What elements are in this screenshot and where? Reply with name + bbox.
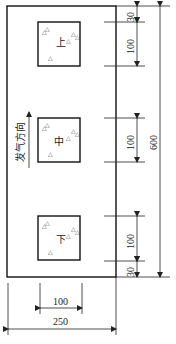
total-width-dimension: 250 bbox=[8, 316, 116, 329]
dim-middle-square: 100 bbox=[125, 135, 136, 150]
svg-text:△: △ bbox=[45, 25, 50, 32]
svg-text:△: △ bbox=[75, 228, 80, 235]
direction-label: 发气方向 bbox=[14, 122, 26, 162]
segment-dimensions: 30 100 100 100 30 bbox=[125, 6, 137, 277]
dim-top-margin: 30 bbox=[125, 12, 136, 22]
total-height-dimension: 600 bbox=[148, 6, 160, 277]
svg-text:△: △ bbox=[66, 37, 71, 44]
zone-label-middle: 中 bbox=[54, 135, 64, 147]
svg-text:250: 250 bbox=[53, 316, 68, 327]
dim-top-square: 100 bbox=[125, 39, 136, 54]
svg-text:△: △ bbox=[75, 33, 80, 40]
svg-text:600: 600 bbox=[148, 135, 159, 150]
svg-text:△: △ bbox=[66, 134, 71, 141]
svg-text:△: △ bbox=[48, 150, 53, 157]
dim-bottom-square: 100 bbox=[125, 234, 136, 249]
svg-text:△: △ bbox=[45, 219, 50, 226]
svg-text:△: △ bbox=[66, 232, 71, 239]
sampling-diagram: 上 中 下 △ △ △ △ △ △ △ △ △ △ △ △ △ △ △ △ △ … bbox=[0, 0, 176, 344]
svg-text:△: △ bbox=[48, 248, 53, 255]
svg-text:100: 100 bbox=[53, 296, 68, 307]
zone-label-bottom: 下 bbox=[56, 234, 66, 245]
svg-text:△: △ bbox=[45, 121, 50, 128]
dim-bottom-margin: 30 bbox=[125, 267, 136, 277]
square-width-dimension: 100 bbox=[40, 296, 82, 308]
svg-text:△: △ bbox=[48, 54, 53, 61]
zone-label-top: 上 bbox=[56, 37, 66, 48]
svg-text:△: △ bbox=[75, 130, 80, 137]
